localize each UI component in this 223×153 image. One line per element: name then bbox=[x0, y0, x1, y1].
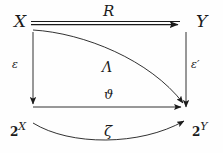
commutative-diagram: X Y 2X 2Y R ε ε′ Λ ϑ ζ bbox=[0, 0, 223, 153]
edge-label-lambda: Λ bbox=[102, 60, 112, 74]
node-label-powerset-Y: 2Y bbox=[192, 121, 208, 139]
node-label-powerset-X: 2X bbox=[10, 121, 26, 139]
edge-label-theta: ϑ bbox=[104, 88, 113, 101]
edge-label-epsilon-prime: ε′ bbox=[191, 59, 199, 70]
edge-label-epsilon: ε bbox=[12, 59, 18, 70]
powerset-exponent: X bbox=[18, 120, 26, 133]
edge-R bbox=[31, 22, 180, 25]
edge-label-zeta: ζ bbox=[104, 124, 112, 139]
node-label-X: X bbox=[14, 13, 26, 30]
powerset-exponent: Y bbox=[200, 120, 207, 133]
edge-label-R: R bbox=[103, 4, 114, 19]
node-label-Y: Y bbox=[196, 13, 207, 30]
